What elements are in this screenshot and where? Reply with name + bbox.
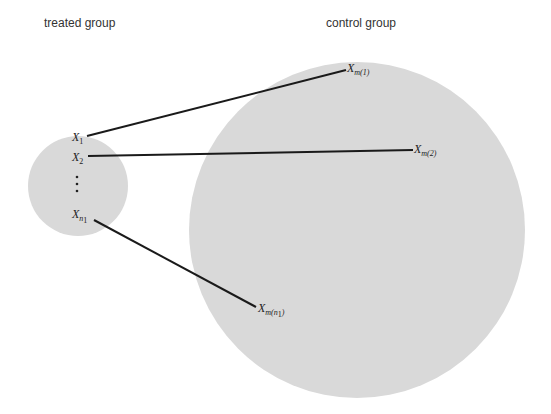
matching-diagram: treated group control group X1 X2 Xn1 Xm… [0, 0, 551, 414]
control-group-circle [189, 62, 525, 398]
treated-unit-x1: X1 [71, 130, 83, 146]
diagram-svg: X1 X2 Xn1 Xm(1) Xm(2) Xm(n1) [0, 0, 551, 414]
